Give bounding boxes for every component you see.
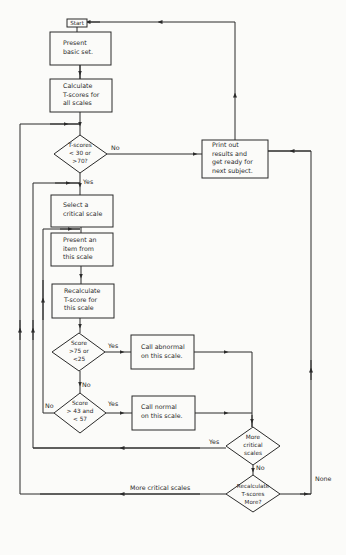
call-abnormal-text: Call abnormal on this scale.	[141, 343, 185, 360]
line: < 30 or	[60, 149, 100, 157]
extreme-score-decision-text: Score >75 or <25	[59, 339, 99, 363]
line: More?	[228, 498, 278, 506]
line: Score	[60, 399, 100, 407]
edge-label-extreme-yes: Yes	[108, 342, 118, 349]
line: this scale	[63, 253, 96, 262]
present-basic-set-text: Present basic set.	[63, 39, 93, 56]
edge-label-tscores-no: No	[111, 144, 120, 151]
line: <25	[59, 355, 99, 363]
line: > 43 and	[60, 407, 100, 415]
line: T-scores for	[63, 91, 99, 100]
line: all scales	[63, 99, 99, 108]
edge-label-more-no: No	[256, 464, 265, 471]
line: T-scores	[228, 490, 278, 498]
more-critical-scales-text: More critical scales	[233, 433, 273, 457]
line: critical	[233, 441, 273, 449]
line: Call abnormal	[141, 343, 185, 352]
line: on this scale.	[141, 352, 185, 361]
line: Recalculate	[64, 287, 100, 296]
tscores-decision-text: T-scores < 30 or >70?	[60, 141, 100, 165]
edge-label-more-yes: Yes	[209, 438, 219, 445]
present-item-text: Present an item from this scale	[63, 236, 96, 262]
line: next subject.	[212, 167, 253, 176]
edge-label-none: None	[315, 475, 331, 482]
line: T-score for	[64, 296, 100, 305]
call-normal-text: Call normal on this scale.	[141, 403, 183, 420]
line: scales	[233, 449, 273, 457]
line: critical scale	[63, 210, 102, 219]
line: Call normal	[141, 403, 183, 412]
line: Calculate	[63, 82, 99, 91]
recalculate-scale-text: Recalculate T-score for this scale	[64, 287, 100, 313]
line: Select a	[63, 201, 102, 210]
line: this scale	[64, 304, 100, 313]
line: on this scale.	[141, 412, 183, 421]
line: results and	[212, 150, 253, 159]
edge-label-more-critical-scales: More critical scales	[130, 484, 190, 491]
print-out-text: Print out results and get ready for next…	[212, 141, 253, 175]
normal-score-decision-text: Score > 43 and < 57	[60, 399, 100, 423]
edge-label-tscores-yes: Yes	[83, 178, 93, 185]
line: Present an	[63, 236, 96, 245]
line: >70?	[60, 157, 100, 165]
line: Print out	[212, 141, 253, 150]
edge-label-normal-yes: Yes	[108, 400, 118, 407]
recalculate-more-text: Recalculate T-scores More?	[228, 482, 278, 506]
line: Present	[63, 39, 93, 48]
line: T-scores	[60, 141, 100, 149]
edge-label-normal-no: No	[45, 402, 54, 409]
line: More	[233, 433, 273, 441]
line: item from	[63, 245, 96, 254]
flowchart-canvas	[0, 0, 346, 555]
calculate-tscores-text: Calculate T-scores for all scales	[63, 82, 99, 108]
start-label: Start	[67, 19, 87, 28]
line: < 57	[60, 415, 100, 423]
line: Recalculate	[228, 482, 278, 490]
line: get ready for	[212, 158, 253, 167]
line: >75 or	[59, 347, 99, 355]
edge-label-extreme-no: No	[82, 381, 91, 388]
line: basic set.	[63, 48, 93, 57]
select-critical-scale-text: Select a critical scale	[63, 201, 102, 218]
line: Score	[59, 339, 99, 347]
